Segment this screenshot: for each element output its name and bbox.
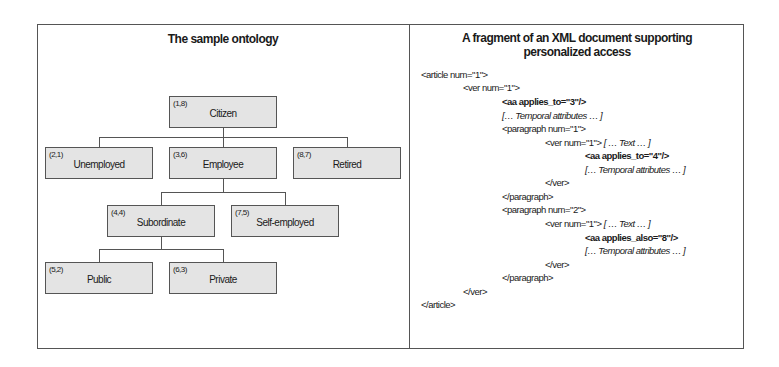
node-public: (5,2) Public xyxy=(45,262,153,294)
node-label: Private xyxy=(170,274,276,285)
connector xyxy=(223,179,224,192)
xml-line: </ver> xyxy=(463,285,487,298)
connector xyxy=(223,137,224,147)
node-code: (3,6) xyxy=(173,150,187,159)
xml-line: <aa applies_also="8"/> xyxy=(585,231,678,244)
node-label: Subordinate xyxy=(108,217,214,228)
node-code: (5,2) xyxy=(49,265,63,274)
node-label: Citizen xyxy=(170,108,276,119)
node-code: (2,1) xyxy=(49,150,63,159)
xml-line: </ver> xyxy=(545,176,569,189)
panel-divider xyxy=(409,24,410,349)
xml-line: </paragraph> xyxy=(502,190,553,203)
connector xyxy=(223,127,224,137)
xml-line: </paragraph> xyxy=(502,271,553,284)
connector xyxy=(161,192,162,205)
node-code: (6,3) xyxy=(173,265,187,274)
node-label: Self-employed xyxy=(232,217,338,228)
node-citizen: (1,8) Citizen xyxy=(169,96,277,128)
xml-line: <ver num="1"> [ … Text … ] xyxy=(545,136,650,149)
xml-line: [… Temporal attributes … ] xyxy=(502,109,602,122)
connector xyxy=(347,137,348,147)
connector xyxy=(161,236,162,249)
connector xyxy=(99,249,100,262)
xml-title-line1: A fragment of an XML document supporting xyxy=(409,31,745,45)
connector xyxy=(99,137,100,147)
xml-line: <article num="1"> xyxy=(421,68,488,81)
connector xyxy=(99,249,224,250)
node-code: (1,8) xyxy=(173,99,187,108)
xml-line: <aa applies_to="4"/> xyxy=(585,149,669,162)
xml-line: [… Temporal attributes … ] xyxy=(585,244,685,257)
node-code: (7,5) xyxy=(235,208,249,217)
node-label: Unemployed xyxy=(46,159,152,170)
node-subordinate: (4,4) Subordinate xyxy=(107,205,215,237)
xml-line: <paragraph num="2"> xyxy=(502,203,586,216)
xml-line: <ver num="1"> [ … Text … ] xyxy=(545,217,650,230)
xml-title-line2: personalized access xyxy=(409,45,745,59)
node-employee: (3,6) Employee xyxy=(169,147,277,179)
ontology-title: The sample ontology xyxy=(37,32,409,46)
xml-line: <paragraph num="1"> xyxy=(502,122,586,135)
node-code: (4,4) xyxy=(111,208,125,217)
figure-frame xyxy=(37,24,744,349)
node-private: (6,3) Private xyxy=(169,262,277,294)
xml-line: <ver num="1"> xyxy=(463,81,520,94)
xml-line: </article> xyxy=(421,298,455,311)
xml-line: [… Temporal attributes … ] xyxy=(585,163,685,176)
xml-line: <aa applies_to="3"/> xyxy=(502,95,586,108)
node-self-employed: (7,5) Self-employed xyxy=(231,205,339,237)
node-label: Retired xyxy=(294,159,400,170)
connector xyxy=(223,249,224,262)
connector xyxy=(285,192,286,205)
xml-line: </ver> xyxy=(545,258,569,271)
node-label: Public xyxy=(46,274,152,285)
node-code: (8,7) xyxy=(297,150,311,159)
node-retired: (8,7) Retired xyxy=(293,147,401,179)
connector xyxy=(161,192,286,193)
node-unemployed: (2,1) Unemployed xyxy=(45,147,153,179)
node-label: Employee xyxy=(170,159,276,170)
